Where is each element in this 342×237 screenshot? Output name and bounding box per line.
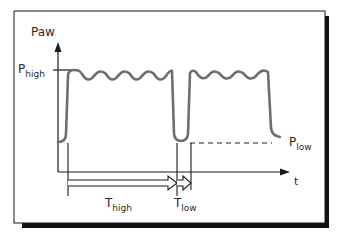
t-low-label: Tlow bbox=[174, 197, 197, 213]
p-low-label: Plow bbox=[289, 136, 312, 152]
x-axis-label: t bbox=[294, 176, 298, 187]
p-low-sub: low bbox=[296, 142, 311, 152]
t-low-sub: low bbox=[181, 203, 196, 213]
x-axis-label-text: t bbox=[294, 175, 298, 188]
p-high-label: Phigh bbox=[18, 63, 45, 79]
y-axis-label: Paw bbox=[31, 26, 55, 38]
t-high-sub: high bbox=[112, 203, 132, 213]
p-high-sub: high bbox=[25, 69, 45, 79]
t-high-label: Thigh bbox=[105, 197, 132, 213]
y-axis-label-text: Paw bbox=[31, 25, 55, 39]
frame-border bbox=[14, 11, 325, 223]
